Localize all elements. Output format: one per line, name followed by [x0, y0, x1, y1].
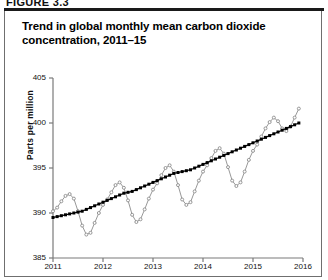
x-axis-tick-label: 2016 — [283, 262, 323, 271]
x-axis-tick-label: 2012 — [83, 262, 123, 271]
figure-container: FIGURE 3.3 Trend in global monthly mean … — [0, 0, 328, 280]
y-axis-tick-label: 395 — [22, 163, 46, 172]
chart-plot-area: Parts per million 3853903954004052011201… — [0, 0, 328, 280]
y-axis-tick-label: 385 — [22, 253, 46, 262]
x-axis-tick-label: 2015 — [233, 262, 273, 271]
y-axis-tick-label: 400 — [22, 118, 46, 127]
chart-svg — [0, 0, 328, 280]
x-axis-tick-label: 2013 — [133, 262, 173, 271]
x-axis-tick-label: 2011 — [33, 262, 73, 271]
x-axis-tick-label: 2014 — [183, 262, 223, 271]
y-axis-tick-label: 390 — [22, 208, 46, 217]
y-axis-tick-label: 405 — [22, 73, 46, 82]
